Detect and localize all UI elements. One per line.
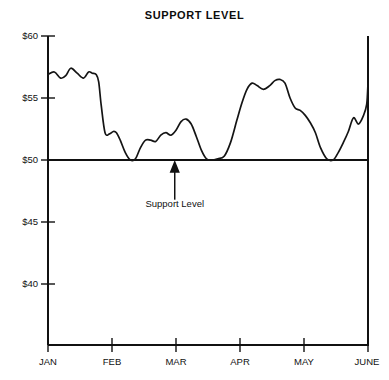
support-arrow-head xyxy=(171,162,179,172)
chart-container: SUPPORT LEVEL $60 $55 $50 $45 $40 JAN xyxy=(0,0,389,380)
x-axis-label-may: MAY xyxy=(284,356,324,367)
x-axis-label-june: JUNE xyxy=(346,356,388,367)
y-axis-label-45: $45 xyxy=(8,216,38,227)
y-axis-label-50: $50 xyxy=(8,154,38,165)
x-axis-label-apr: APR xyxy=(220,356,260,367)
y-axis-label-55: $55 xyxy=(8,92,38,103)
y-axis-label-40: $40 xyxy=(8,278,38,289)
x-axis-label-mar: MAR xyxy=(156,356,196,367)
x-axis-label-jan: JAN xyxy=(28,356,68,367)
price-line-series xyxy=(48,68,368,160)
chart-plot-area xyxy=(0,0,389,380)
y-axis-label-60: $60 xyxy=(8,30,38,41)
x-axis-label-feb: FEB xyxy=(92,356,132,367)
support-level-annotation: Support Level xyxy=(125,198,225,209)
